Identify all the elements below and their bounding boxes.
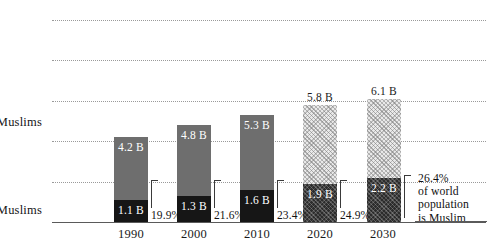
series-label-non-muslims: Non-Muslims xyxy=(0,116,42,129)
bar-segment-muslims-1990: 1.1 B xyxy=(114,200,148,222)
x-axis-tick-2020: 2020 xyxy=(285,228,355,241)
bar-group-2020[interactable]: 1.9 B xyxy=(303,105,337,222)
share-bracket-2000 xyxy=(214,180,221,208)
bar-total-label-2010: 5.3 B xyxy=(240,120,274,132)
bar-segment-muslims-2010: 1.6 B xyxy=(240,190,274,222)
bar-segment-muslims-2030: 2.2 B xyxy=(367,178,401,222)
series-label-muslims: Muslims xyxy=(0,204,42,217)
bar-group-2030[interactable]: 2.2 B xyxy=(367,99,401,222)
x-axis-tick-2030: 2030 xyxy=(348,228,418,241)
muslim-share-callout: 26.4% of world population is Muslim xyxy=(418,172,490,225)
bar-muslim-label-2010: 1.6 B xyxy=(240,195,274,207)
callout-line-2: of world xyxy=(418,185,490,198)
gridline-6 xyxy=(52,101,486,102)
x-axis-tick-2010: 2010 xyxy=(222,228,292,241)
callout-line-4: is Muslim xyxy=(418,212,490,225)
bar-muslim-label-2000: 1.3 B xyxy=(177,201,211,213)
bar-segment-muslims-2020: 1.9 B xyxy=(303,184,337,222)
bar-total-label-2020: 5.8 B xyxy=(303,92,337,104)
bar-muslim-label-1990: 1.1 B xyxy=(114,205,148,217)
population-projection-chart: 10 billion 8 6 4 2 0 Non-Muslims Muslims… xyxy=(0,0,491,248)
x-axis-tick-2000: 2000 xyxy=(159,228,229,241)
bar-group-2010[interactable]: 5.3 B 1.6 B xyxy=(240,115,274,222)
bar-total-label-2030: 6.1 B xyxy=(367,86,401,98)
bar-group-2000[interactable]: 4.8 B 1.3 B xyxy=(177,125,211,222)
callout-line-3: population xyxy=(418,198,490,211)
bar-total-label-2000: 4.8 B xyxy=(177,130,211,142)
share-bracket-1990 xyxy=(151,180,158,208)
bar-segment-non-muslims-2000: 4.8 B xyxy=(177,125,211,196)
bar-segment-non-muslims-2030 xyxy=(367,99,401,178)
bar-segment-muslims-2000: 1.3 B xyxy=(177,196,211,222)
x-axis-tick-1990: 1990 xyxy=(96,228,166,241)
bar-muslim-label-2030: 2.2 B xyxy=(367,183,401,195)
bar-muslim-label-2020: 1.9 B xyxy=(303,189,337,201)
callout-underline xyxy=(415,221,487,222)
callout-line-1: 26.4% xyxy=(418,172,490,185)
share-bracket-2020 xyxy=(340,180,347,208)
gridline-8 xyxy=(52,60,486,61)
share-bracket-2030 xyxy=(404,175,411,218)
gridline-10 xyxy=(52,20,486,21)
bar-total-label-1990: 4.2 B xyxy=(114,142,148,154)
bar-segment-non-muslims-2010: 5.3 B xyxy=(240,115,274,190)
bar-group-1990[interactable]: 4.2 B 1.1 B xyxy=(114,137,148,222)
share-pct-2020: 24.9% xyxy=(340,210,370,222)
share-bracket-2010 xyxy=(277,180,284,208)
bar-segment-non-muslims-1990: 4.2 B xyxy=(114,137,148,200)
bar-segment-non-muslims-2020 xyxy=(303,105,337,184)
